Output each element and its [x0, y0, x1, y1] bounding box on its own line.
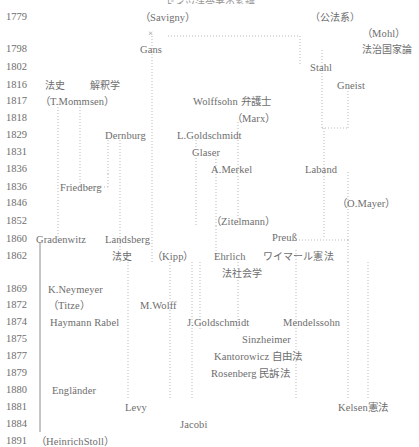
- year-label-1779: 1779: [6, 11, 27, 22]
- node-savigny: （Savigny）: [140, 12, 195, 23]
- year-label-1869: 1869: [6, 283, 27, 294]
- node-gradenwitz: Gradenwitz: [36, 234, 86, 245]
- node-cross: ×: [148, 28, 153, 39]
- node-stahl: Stahl: [310, 62, 332, 73]
- node-jgoldschmidt: J.Goldschmidt: [187, 317, 249, 328]
- connector-lines: [0, 0, 419, 447]
- year-label-1816: 1816: [6, 79, 27, 90]
- node-glaser: Glaser: [192, 147, 220, 158]
- year-label-1852: 1852: [6, 215, 27, 226]
- node-englander: Engländer: [52, 385, 96, 396]
- node-wolffsohn: Wolffsohn 弁護士: [193, 96, 271, 107]
- year-label-1836: 1836: [6, 181, 27, 192]
- year-label-1884: 1884: [6, 418, 27, 429]
- node-gneist: Gneist: [337, 80, 365, 91]
- year-label-1872: 1872: [6, 299, 27, 310]
- node-landsberg: Landsberg: [105, 234, 150, 245]
- year-label-1874: 1874: [6, 316, 27, 327]
- node-weimar: ワイマール憲法: [263, 251, 334, 262]
- node-dernburg: Dernburg: [105, 130, 146, 141]
- year-label-1875: 1875: [6, 333, 27, 344]
- node-gans: Gans: [140, 44, 162, 55]
- node-levy: Levy: [125, 402, 147, 413]
- node-hochikokka: 法治国家論: [362, 44, 413, 55]
- node-laband: Laband: [305, 164, 337, 175]
- node-sinzheimer: Sinzheimer: [242, 334, 291, 345]
- node-rosenberg: Rosenberg 民訴法: [211, 368, 290, 379]
- year-label-1879: 1879: [6, 367, 27, 378]
- node-heinrichstoll: （HeinrichStoll）: [36, 436, 114, 447]
- node-haymann: Haymann Rabel: [50, 317, 119, 328]
- year-label-1836: 1836: [6, 163, 27, 174]
- year-label-1831: 1831: [6, 146, 27, 157]
- chart-title: ドイツ法学者の系譜: [0, 0, 419, 4]
- node-friedberg: Friedberg: [60, 182, 102, 193]
- year-label-1881: 1881: [6, 401, 27, 412]
- node-amerkel: A.Merkel: [211, 164, 252, 175]
- genealogy-chart: ドイツ法学者の系譜 177917981802181618171818182918…: [0, 0, 419, 447]
- node-omayer: （O.Mayer）: [337, 198, 396, 209]
- node-tmommsen: （T.Mommsen）: [40, 96, 114, 107]
- node-lgoldschmidt: L.Goldschmidt: [177, 130, 242, 141]
- node-zitelmann: （Zitelmann）: [211, 216, 275, 227]
- node-kantorowicz: Kantorowicz 自由法: [214, 351, 302, 362]
- year-label-1798: 1798: [6, 43, 27, 54]
- year-label-1860: 1860: [6, 233, 27, 244]
- node-kipp: （Kipp）: [152, 251, 194, 262]
- node-kaishakugaku: 解釈学: [90, 80, 120, 91]
- year-label-1817: 1817: [6, 95, 27, 106]
- year-label-1891: 1891: [6, 435, 27, 446]
- year-label-1818: 1818: [6, 112, 27, 123]
- year-label-1846: 1846: [6, 197, 27, 208]
- year-label-1880: 1880: [6, 384, 27, 395]
- node-hoshi2: 法史: [112, 251, 132, 262]
- year-label-1829: 1829: [6, 129, 27, 140]
- node-ehrlich: Ehrlich: [214, 251, 246, 262]
- node-mendelssohn: Mendelssohn: [283, 317, 340, 328]
- year-label-1802: 1802: [6, 61, 27, 72]
- node-kneymeyer: K.Neymeyer: [48, 284, 103, 295]
- node-titze: （Titze）: [48, 300, 90, 311]
- node-jacobi: Jacobi: [180, 419, 207, 430]
- node-kelsen: Kelsen憲法: [338, 402, 388, 413]
- node-marx: （Marx）: [232, 113, 275, 124]
- year-label-1862: 1862: [6, 250, 27, 261]
- node-koho-kei: （公法系）: [310, 12, 361, 23]
- node-mwolff: M.Wolff: [140, 300, 177, 311]
- node-hoshakaigaku: 法社会学: [222, 268, 262, 279]
- node-preuss: Preuß: [272, 232, 297, 243]
- node-mohl: （Mohl）: [362, 28, 405, 39]
- year-label-1877: 1877: [6, 350, 27, 361]
- node-hoshi1: 法史: [45, 80, 65, 91]
